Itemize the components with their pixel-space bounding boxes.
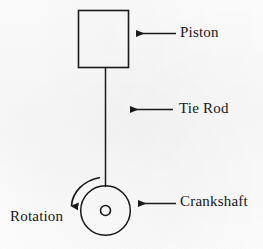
piston-label: Piston — [180, 25, 219, 40]
tie-rod-label: Tie Rod — [179, 101, 229, 116]
crankshaft-hub-circle — [101, 206, 111, 216]
engine-assembly-diagram: Piston Tie Rod Crankshaft Rotation — [0, 0, 263, 249]
rotation-label: Rotation — [10, 209, 63, 224]
crankshaft-circle — [81, 186, 131, 236]
piston-rectangle — [79, 11, 129, 68]
rotation-arc-arrow — [72, 178, 101, 207]
crankshaft-label: Crankshaft — [180, 194, 248, 209]
